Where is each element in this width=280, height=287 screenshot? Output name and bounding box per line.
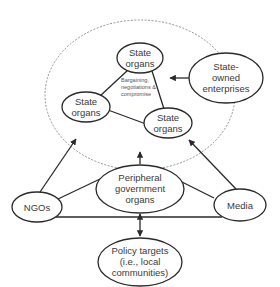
edge-state-left-right: [108, 110, 146, 124]
node-peripheral-government-organs: Peripheral government organs: [96, 165, 184, 213]
node-state-organs-left: State organs: [62, 92, 110, 122]
edge-ngos-peripheral: [58, 179, 100, 199]
node-state-owned-enterprises: State- owned enterprises: [189, 53, 263, 103]
node-label: organs: [125, 194, 154, 205]
node-state-organs-top: State organs: [117, 43, 163, 73]
node-policy-targets: Policy targets (i.e., local communities): [98, 238, 182, 286]
node-label: government: [115, 183, 166, 194]
node-label: (i.e., local: [120, 256, 161, 267]
node-label: State: [75, 96, 97, 107]
edge-ngos-to-state: [40, 139, 76, 192]
edge-media-to-state: [189, 140, 236, 189]
node-label: State: [157, 112, 179, 123]
node-media: Media: [214, 189, 266, 221]
node-label: Peripheral: [118, 172, 161, 183]
note-line: Bargaining,: [121, 77, 149, 83]
node-label: enterprises: [203, 83, 250, 94]
node-state-organs-right: State organs: [144, 108, 192, 138]
policy-network-diagram: State organs State organs State organs B…: [0, 0, 280, 287]
edge-state-top-right: [152, 71, 164, 109]
node-label: Policy targets: [111, 245, 168, 256]
node-label: owned: [212, 72, 240, 83]
note-line: compromise: [121, 91, 151, 97]
node-label: organs: [153, 123, 182, 134]
node-label: Media: [227, 200, 254, 211]
node-label: NGOs: [24, 202, 51, 213]
node-label: organs: [71, 107, 100, 118]
node-label: State: [129, 47, 151, 58]
note-line: negotiations &: [121, 84, 156, 90]
node-ngos: NGOs: [12, 192, 62, 222]
node-label: communities): [112, 267, 169, 278]
node-label: organs: [125, 58, 154, 69]
center-note-bargaining: Bargaining, negotiations & compromise: [121, 77, 156, 97]
node-label: State-: [213, 61, 238, 72]
